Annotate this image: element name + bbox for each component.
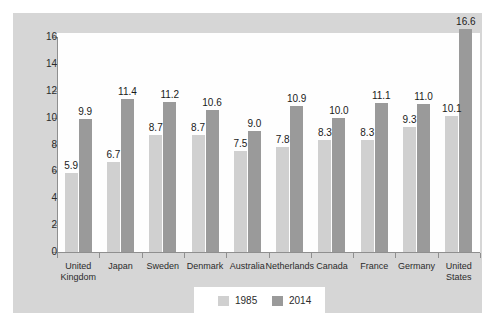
bar-value-label: 9.9 bbox=[71, 107, 99, 117]
x-axis-category-label: Canada bbox=[308, 261, 356, 272]
bar-value-label: 10.0 bbox=[325, 106, 353, 116]
x-axis-tick bbox=[353, 253, 354, 258]
y-axis-tick-label-wrap: 4 bbox=[13, 193, 57, 203]
bar-value-label: 8.7 bbox=[142, 123, 170, 133]
bar-value-label: 9.3 bbox=[396, 115, 424, 125]
x-axis-tick bbox=[184, 253, 185, 258]
x-axis-category-label: Germany bbox=[392, 261, 440, 272]
chart-panel: 0246810121416 5.99.96.711.48.711.28.710.… bbox=[13, 13, 482, 313]
legend-swatch-icon bbox=[218, 296, 229, 306]
bar-value-label: 10.1 bbox=[438, 104, 466, 114]
bar-2014-united-states bbox=[459, 29, 472, 252]
bar-value-label: 10.9 bbox=[283, 94, 311, 104]
bar-2014-netherlands bbox=[290, 106, 303, 252]
y-axis-tick-label-wrap: 14 bbox=[13, 59, 57, 69]
x-axis-tick bbox=[99, 253, 100, 258]
bar-value-label: 9.0 bbox=[240, 119, 268, 129]
x-axis-tick bbox=[269, 253, 270, 258]
y-axis-tick-label: 6 bbox=[31, 166, 57, 176]
x-axis-category-label: Australia bbox=[223, 261, 271, 272]
bar-1985-france bbox=[361, 140, 374, 252]
y-axis-tick-label: 10 bbox=[31, 113, 57, 123]
bar-1985-germany bbox=[403, 127, 416, 252]
bar-1985-japan bbox=[107, 162, 120, 252]
bar-value-label: 5.9 bbox=[57, 161, 85, 171]
bar-1985-canada bbox=[318, 140, 331, 252]
bar-value-label: 7.8 bbox=[269, 135, 297, 145]
bar-2014-japan bbox=[121, 99, 134, 252]
y-axis-tick-label: 16 bbox=[31, 32, 57, 42]
bar-1985-netherlands bbox=[276, 147, 289, 252]
y-axis-tick-label-wrap: 2 bbox=[13, 220, 57, 230]
x-axis-category-label: Sweden bbox=[139, 261, 187, 272]
y-axis-tick-label: 8 bbox=[31, 140, 57, 150]
bar-value-label: 11.2 bbox=[156, 90, 184, 100]
y-axis-tick-label: 14 bbox=[31, 59, 57, 69]
x-axis-tick bbox=[226, 253, 227, 258]
bar-value-label: 11.0 bbox=[410, 92, 438, 102]
bar-1985-united-states bbox=[445, 116, 458, 252]
bar-1985-united-kingdom bbox=[65, 173, 78, 252]
y-axis-tick-label-wrap: 10 bbox=[13, 113, 57, 123]
bar-2014-france bbox=[375, 103, 388, 252]
x-axis-category-label: United States bbox=[435, 261, 483, 283]
y-axis-tick-label-wrap: 16 bbox=[13, 32, 57, 42]
x-axis-tick bbox=[57, 253, 58, 258]
chart-figure: 0246810121416 5.99.96.711.48.711.28.710.… bbox=[0, 0, 500, 327]
legend-label: 1985 bbox=[235, 295, 257, 306]
y-axis-tick-label-wrap: 0 bbox=[13, 247, 57, 257]
bar-value-label: 8.3 bbox=[353, 128, 381, 138]
x-axis-category-label: Japan bbox=[96, 261, 144, 272]
x-axis-category-label: Denmark bbox=[181, 261, 229, 272]
x-axis-tick bbox=[395, 253, 396, 258]
bar-1985-australia bbox=[234, 151, 247, 252]
bar-value-label: 10.6 bbox=[198, 98, 226, 108]
legend-swatch-icon bbox=[272, 296, 283, 306]
bar-2014-united-kingdom bbox=[79, 119, 92, 252]
bar-value-label: 7.5 bbox=[226, 139, 254, 149]
bar-value-label: 6.7 bbox=[99, 150, 127, 160]
bar-value-label: 8.7 bbox=[184, 123, 212, 133]
chart-legend: 19852014 bbox=[194, 287, 325, 313]
bar-value-label: 16.6 bbox=[452, 17, 480, 27]
bar-value-label: 11.1 bbox=[367, 91, 395, 101]
bar-1985-sweden bbox=[149, 135, 162, 252]
legend-label: 2014 bbox=[289, 295, 311, 306]
y-axis-tick-label: 12 bbox=[31, 86, 57, 96]
y-axis-tick-label-wrap: 12 bbox=[13, 86, 57, 96]
y-axis-tick-label-wrap: 6 bbox=[13, 166, 57, 176]
x-axis-tick bbox=[311, 253, 312, 258]
x-axis-category-label: United Kingdom bbox=[54, 261, 102, 283]
bar-2014-germany bbox=[417, 104, 430, 252]
x-axis-category-label: Netherlands bbox=[266, 261, 314, 272]
x-axis-tick bbox=[142, 253, 143, 258]
y-axis-tick-label: 4 bbox=[31, 193, 57, 203]
y-axis-tick-label-wrap: 8 bbox=[13, 140, 57, 150]
y-axis-tick-label: 2 bbox=[31, 220, 57, 230]
bar-value-label: 8.3 bbox=[311, 128, 339, 138]
bar-value-label: 11.4 bbox=[113, 87, 141, 97]
x-axis-category-label: France bbox=[350, 261, 398, 272]
x-axis-tick bbox=[480, 253, 481, 258]
y-axis-tick-label: 0 bbox=[31, 247, 57, 257]
bar-1985-denmark bbox=[192, 135, 205, 252]
x-axis-tick bbox=[438, 253, 439, 258]
